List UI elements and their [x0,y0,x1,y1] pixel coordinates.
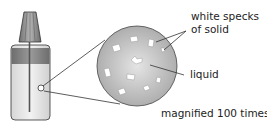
speck [156,77,161,83]
bottle-band [12,48,50,64]
label-magnification: magnified 100 times [161,107,267,119]
magnified-view [97,26,177,106]
label-liquid: liquid [190,68,219,80]
label-of-solid: of solid [191,23,229,35]
speck [127,74,135,80]
zoom-line-top [43,40,105,86]
speck [148,39,154,47]
speck [130,36,138,42]
bottle [11,12,50,120]
label-white-specks: white specks [191,10,259,22]
